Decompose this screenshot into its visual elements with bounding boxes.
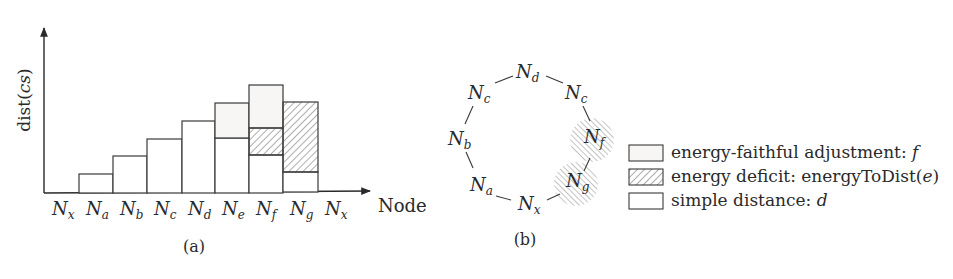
tick-label: Nx xyxy=(324,198,348,222)
legend-item-simple-distance: simple distance: d xyxy=(629,190,828,210)
legend-swatch-plain xyxy=(629,193,663,209)
tick-label: Nc xyxy=(153,198,177,222)
ring-node-nc-right: Nc xyxy=(564,82,588,106)
panel-a-caption: (a) xyxy=(183,237,205,256)
panel-a-bar-chart: dist(cs) Nx Na Nb Nc Nd N xyxy=(14,28,427,256)
bar-na-d xyxy=(79,174,113,193)
ring-node-nc-left: Nc xyxy=(467,82,491,106)
legend-item-energy-faithful: energy-faithful adjustment: f xyxy=(629,142,921,162)
panel-b-ring-diagram: Nd Nc Nc Nb Nf Na Ng Nx (b) xyxy=(447,61,614,249)
y-axis-label: dist(cs) xyxy=(14,68,34,131)
ring-node-nx: Nx xyxy=(517,193,541,217)
tick-label: Ne xyxy=(221,198,245,222)
svg-text:energy deficit: energyToDist(e: energy deficit: energyToDist(e) xyxy=(671,166,939,186)
bar-ng-e xyxy=(283,102,318,172)
tick-label: Nd xyxy=(187,198,212,222)
legend-item-energy-deficit: energy deficit: energyToDist(e) xyxy=(629,166,939,186)
panel-b-caption: (b) xyxy=(514,230,537,249)
ring-node-nb: Nb xyxy=(447,128,471,152)
bar-ne-d xyxy=(215,138,249,193)
ring-node-nd: Nd xyxy=(515,61,540,85)
legend-swatch-hatched xyxy=(629,169,663,185)
tick-label: Nx xyxy=(51,198,75,222)
x-tick-labels: Nx Na Nb Nc Nd Ne Nf Ng Nx xyxy=(51,198,348,222)
bar-nf-e xyxy=(249,128,283,155)
tick-label: Ng xyxy=(289,198,314,222)
bar-nf-d xyxy=(249,155,283,193)
figure-canvas: dist(cs) Nx Na Nb Nc Nd N xyxy=(0,0,953,279)
svg-text:simple distance: d: simple distance: d xyxy=(671,190,828,210)
tick-label: Na xyxy=(85,198,109,222)
legend: energy-faithful adjustment: f energy def… xyxy=(629,142,939,210)
tick-label: Nf xyxy=(255,198,279,222)
bar-nf-f xyxy=(249,85,283,128)
bar-nc-d xyxy=(147,139,182,193)
bar-nb-d xyxy=(113,156,147,193)
bar-ne-f xyxy=(215,103,249,138)
legend-swatch-light xyxy=(629,145,663,161)
svg-text:energy-faithful adjustment: f: energy-faithful adjustment: f xyxy=(671,142,921,162)
x-axis-label: Node xyxy=(378,195,427,216)
ring-node-na: Na xyxy=(469,174,493,198)
bar-nd-d xyxy=(182,121,215,193)
bar-ng-d xyxy=(283,172,318,192)
tick-label: Nb xyxy=(119,198,143,222)
